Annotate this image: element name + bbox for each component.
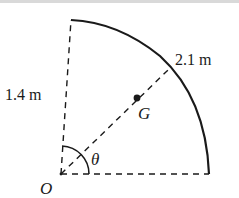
center-of-mass-label: G xyxy=(138,104,150,123)
vertical-length-label: 1.4 m xyxy=(5,86,42,103)
arc-length-label: 2.1 m xyxy=(175,51,212,68)
vertical-dashed-radius xyxy=(61,20,71,174)
diagonal-dashed-line xyxy=(61,70,168,174)
origin-label: O xyxy=(40,179,52,198)
angle-label: θ xyxy=(91,150,99,169)
origin-point xyxy=(60,173,63,176)
sector-diagram: 1.4 m 2.1 m G θ O xyxy=(0,0,239,198)
center-of-mass-point xyxy=(134,95,141,102)
